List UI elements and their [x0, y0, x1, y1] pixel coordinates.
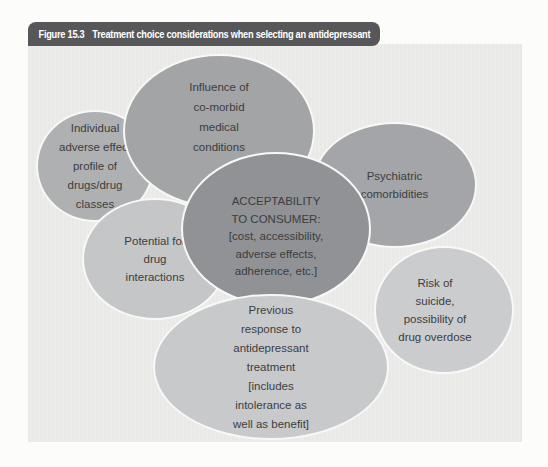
figure-title-inner: Figure 15.3 Treatment choice considerati… — [28, 28, 370, 40]
ellipse-previous-response-treatment: Previous response to antidepressant trea… — [153, 294, 389, 440]
ellipse-acceptability-to-consumer: ACCEPTABILITY TO CONSUMER: [cost, access… — [181, 152, 371, 306]
ellipse-risk-of-suicide-overdose: Risk of suicide, possibility of drug ove… — [374, 246, 514, 374]
ellipse-acceptability-to-consumer-text: ACCEPTABILITY TO CONSUMER: [cost, access… — [229, 193, 323, 281]
ellipse-influence-comorbid-medical-text: Influence of co-morbid medical condition… — [189, 77, 248, 157]
figure-title-bar: Figure 15.3 Treatment choice considerati… — [28, 22, 380, 46]
ellipse-potential-drug-interactions-text: Potential for drug interactions — [124, 232, 185, 286]
ellipse-previous-response-treatment-text: Previous response to antidepressant trea… — [233, 301, 309, 434]
figure-title: Treatment choice considerations when sel… — [92, 28, 370, 40]
figure-page: Figure 15.3 Treatment choice considerati… — [0, 0, 548, 467]
ellipse-risk-of-suicide-overdose-text: Risk of suicide, possibility of drug ove… — [398, 274, 472, 346]
figure-label: Figure 15.3 — [39, 28, 85, 40]
ellipse-individual-adverse-effect-profile-text: Individual adverse effect profile of dru… — [59, 119, 131, 214]
ellipse-psychiatric-comorbidities-text: Psychiatric comorbidities — [361, 167, 429, 203]
